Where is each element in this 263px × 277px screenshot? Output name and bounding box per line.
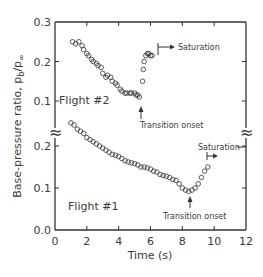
data-point	[202, 169, 207, 174]
x-tick-label: 0	[52, 235, 59, 248]
x-tick-label: 2	[83, 235, 90, 248]
axis-break-right-icon: ≈	[240, 123, 253, 142]
svg-text:Transition onset: Transition onset	[162, 212, 226, 221]
data-point	[199, 175, 204, 180]
data-point	[129, 161, 134, 166]
svg-text:Transition onset: Transition onset	[139, 121, 203, 130]
x-tick-label: 8	[179, 235, 186, 248]
flight-2-label: Flight #2	[59, 94, 109, 107]
y-tick-label: 0.0	[34, 224, 52, 237]
data-point	[100, 71, 105, 76]
flight-2-saturation-annotation: Saturation	[158, 43, 220, 55]
x-tick-label: 10	[207, 235, 221, 248]
flight-1-saturation-annotation: Saturation	[198, 143, 246, 160]
y-axis-title: Base-pressure ratio, pb/p∞	[11, 54, 26, 198]
svg-text:Saturation: Saturation	[198, 143, 240, 152]
y-tick-label: 0.2	[34, 56, 52, 69]
data-point	[196, 182, 201, 187]
data-point	[177, 182, 182, 187]
x-tick-label: 4	[115, 235, 122, 248]
y-tick-label: 0.3	[34, 16, 52, 29]
flight-1-label: Flight #1	[68, 200, 118, 213]
x-axis-title: Time (s)	[127, 249, 173, 262]
data-point	[161, 173, 166, 178]
data-point	[141, 67, 146, 72]
y-tick-label: 0.1	[34, 182, 52, 195]
data-point	[158, 172, 163, 177]
x-tick-label: 12	[239, 235, 253, 248]
data-point	[142, 59, 147, 64]
flight-2-transition-annotation: Transition onset	[139, 106, 204, 130]
y-tick-label: 0.1	[34, 95, 52, 108]
data-point	[140, 79, 145, 84]
svg-text:Saturation: Saturation	[178, 43, 220, 52]
data-point	[142, 165, 147, 170]
y-tick-label: 0.2	[34, 140, 52, 153]
data-point	[81, 47, 86, 52]
data-point	[155, 170, 160, 175]
data-points	[69, 39, 210, 193]
base-pressure-chart: ≈ ≈ 024681012 0.30.20.10.20.10.0 Time (s…	[0, 0, 263, 277]
flight-1-transition-annotation: Transition onset	[162, 196, 226, 221]
data-point	[206, 165, 211, 170]
axis-break-left-icon: ≈	[49, 123, 62, 142]
x-tick-label: 6	[147, 235, 154, 248]
